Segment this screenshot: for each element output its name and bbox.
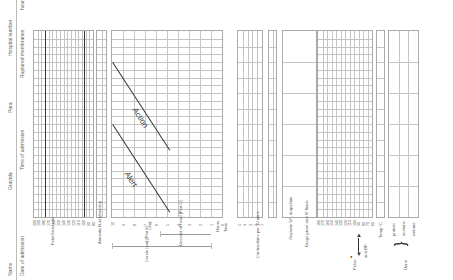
grid-line [112,109,222,110]
drugs-iv-grid[interactable] [282,30,317,218]
descent-bracket-end [160,231,161,237]
tick-label: 110 [348,220,352,226]
grid-line [318,62,372,63]
grid-line [238,155,262,156]
grid-line [389,124,418,125]
header-date-of-admission-label: Date of admission [20,236,25,276]
tick-label: 130 [67,220,71,226]
tick-label: 130 [339,220,343,226]
grid-line [318,54,372,55]
grid-line [269,140,276,141]
grid-line [97,62,106,63]
header-hospital-number-label: Hospital number [8,20,13,56]
grid-line [97,178,106,179]
tick-label: 60 [371,222,375,226]
grid-line [269,109,276,110]
grid-line [238,62,262,63]
header-divider [16,0,17,280]
grid-line [97,109,106,110]
grid-line [112,39,222,40]
grid-line [269,47,276,48]
header-ruptured-membranes-label: Ruptured membranes [20,30,25,78]
contractions-grid[interactable] [237,30,263,218]
grid-line [97,101,106,102]
grid-line [238,124,262,125]
tick-label: 90 [87,222,91,226]
tick-label: 9 [122,224,126,226]
tick-label: 1 [210,224,214,226]
tick-label: 180 [317,220,321,226]
tick-label: 200 [33,220,37,226]
grid-line [97,54,106,55]
grid-line [112,78,222,79]
tick-label: 170 [321,220,325,226]
grid-line [318,155,372,156]
fetal-heart-rate-grid[interactable] [33,30,94,218]
grid-line [318,124,372,125]
cervix-bracket [112,246,211,247]
tick-label: 100 [353,220,357,226]
grid-line [318,85,372,86]
amniotic-moulding-grid[interactable] [96,30,107,218]
grid-line [97,93,106,94]
tick-label: 10 [111,222,115,226]
grid-line [318,202,372,203]
temperature-grid[interactable] [376,30,385,218]
grid-line [112,124,222,125]
grid-line [377,124,384,125]
grid-line [238,47,262,48]
header-time-of-admission-label: Time of admission [20,130,25,170]
grid-line [97,155,106,156]
time-label: Time [224,223,228,232]
urine-volume-label: volume [412,223,416,237]
fhr-label: Fetal heart rate [51,217,55,245]
grid-line [97,163,106,164]
header-para-label: Para [8,102,13,113]
grid-line [318,39,372,40]
header-gravida-label: Gravida [8,172,13,190]
oxytocin-grid[interactable] [268,30,277,218]
grid-line [238,186,262,187]
descent-plot-label: Descent of head [Plot O] [179,200,183,246]
urine-grid[interactable] [388,30,419,218]
grid-line [112,155,222,156]
grid-line [238,78,262,79]
grid-line [283,62,316,63]
grid-line [318,78,372,79]
tick-label: 150 [330,220,334,226]
tick-label: 120 [72,220,76,226]
grid-line [318,93,372,94]
bp-label: and BP [364,244,368,258]
grid-line [318,163,372,164]
grid-line [112,116,222,117]
grid-line [97,186,106,187]
hours-label: Hours [216,221,220,232]
drugs-label: Drugs given and IV fluids [305,200,309,247]
urine-acetone-label: acetone [402,221,406,236]
grid-line [318,147,372,148]
bp-arrow-down-icon: ▼ [356,251,362,257]
contractions-label: Contractions per 10 mins [256,211,260,258]
cervix-bracket-end [112,243,113,249]
fhr-reference-line [84,31,85,217]
bp-arrow-shaft [358,238,359,252]
cervix-descent-grid[interactable] [111,30,223,218]
tick-label: 70 [366,222,370,226]
grid-line [318,194,372,195]
grid-line [97,171,106,172]
grid-line [97,78,106,79]
urine-brace-icon: } [393,242,407,247]
tick-label: 3 [188,224,192,226]
pulse-bp-grid[interactable] [317,30,373,218]
grid-line [377,171,384,172]
pulse-dot-icon: ● [350,255,352,259]
header-name-label: Name [8,263,13,276]
grid-line [377,140,384,141]
grid-line [318,140,372,141]
tick-label: 160 [326,220,330,226]
amniotic-moulding-label: Amniotic fluid Moulding [98,201,102,244]
grid-line [318,186,372,187]
grid-line [377,78,384,79]
grid-line [112,132,222,133]
tick-label: 150 [57,220,61,226]
